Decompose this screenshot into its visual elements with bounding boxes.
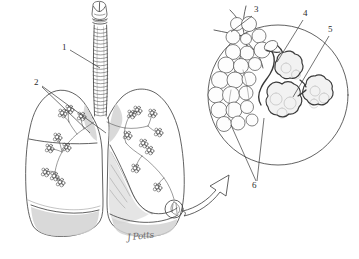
- label-1: 1: [62, 43, 67, 52]
- label-2: 2: [34, 78, 39, 87]
- leader-2a: [42, 86, 106, 133]
- alveolar-sac-cluster: [208, 6, 270, 132]
- leader-1: [70, 50, 100, 68]
- label-4: 4: [303, 9, 308, 18]
- alveolus-cross-section-group: [266, 51, 333, 118]
- larynx-group: [92, 1, 107, 24]
- anatomy-figure: .ink{fill:none;stroke:#3a3a3a;stroke-wid…: [0, 0, 359, 259]
- left-bronchial-tree: [41, 105, 94, 187]
- trachea-group: [93, 25, 108, 116]
- label-6: 6: [252, 181, 257, 190]
- detail-circle-on-lung: [165, 200, 183, 218]
- magnifier-arrow: [183, 175, 229, 216]
- leader-2b: [42, 87, 90, 133]
- leader-6a: [231, 125, 256, 181]
- leader-6b: [257, 118, 264, 181]
- left-lung-group: [26, 90, 103, 236]
- right-lung-group: [107, 89, 184, 237]
- label-5: 5: [328, 25, 333, 34]
- label-3: 3: [254, 5, 259, 14]
- respiratory-system-drawing: .ink{fill:none;stroke:#3a3a3a;stroke-wid…: [0, 0, 359, 259]
- magnified-alveoli-inset: [208, 6, 348, 165]
